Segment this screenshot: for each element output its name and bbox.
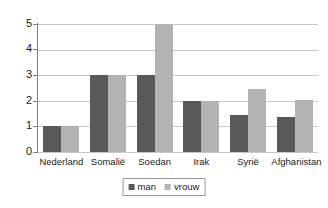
x-axis-label: Nederland [38,156,85,167]
legend-label: vrouw [174,182,199,192]
x-axis-label: Syrië [225,156,272,167]
y-tick-label: 2 [6,95,32,106]
bar-nederland-vrouw [61,126,79,152]
y-axis-tick [33,24,37,25]
x-axis-label: Irak [178,156,225,167]
y-axis-tick [33,75,37,76]
y-axis-tick [33,126,37,127]
legend-label: man [138,182,156,192]
y-axis-tick [33,152,37,153]
y-axis-tick [33,101,37,102]
bar-syri-vrouw [248,89,266,152]
x-axis-label: Soedan [131,156,178,167]
bar-afghanistan-man [277,117,295,152]
bar-nederland-man [43,126,61,152]
x-axis-label: Afghanistan [271,156,318,167]
plot-area [38,24,318,152]
bar-somali-man [90,75,108,152]
bar-soedan-man [137,75,155,152]
y-tick-label: 5 [6,18,32,29]
legend-swatch-icon [129,184,135,190]
bar-soedan-vrouw [155,24,173,152]
legend-swatch-icon [165,184,171,190]
x-axis-label: Somalië [85,156,132,167]
y-tick-label: 0 [6,146,32,157]
gridline [38,152,318,153]
bar-syri-man [230,115,248,152]
bar-chart: 5 4 3 2 1 0 NederlandSomaliëSoedanIrakSy… [0,0,328,208]
y-tick-label: 1 [6,120,32,131]
bar-somali-vrouw [108,75,126,152]
bar-afghanistan-vrouw [295,100,313,152]
y-tick-label: 3 [6,69,32,80]
y-axis-tick [33,49,37,50]
bar-groups [38,24,318,152]
bar-irak-vrouw [201,101,219,152]
bar-irak-man [183,101,201,152]
chart-legend: man vrouw [123,178,206,196]
legend-item-man[interactable]: man [129,182,156,192]
legend-item-vrouw[interactable]: vrouw [165,182,199,192]
y-tick-label: 4 [6,43,32,54]
y-axis-labels: 5 4 3 2 1 0 [0,0,32,208]
